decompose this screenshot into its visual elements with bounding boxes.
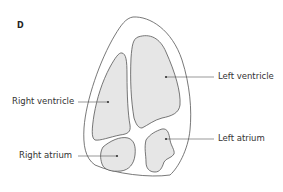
right-ventricle-chamber (92, 53, 130, 140)
label-left-atrium: Left atrium (218, 133, 265, 143)
label-right-atrium: Right atrium (19, 150, 72, 160)
right-atrium-chamber (101, 138, 136, 172)
left-atrium-chamber (145, 129, 174, 172)
label-left-ventricle: Left ventricle (218, 71, 274, 81)
label-right-ventricle: Right ventricle (12, 96, 74, 106)
left-ventricle-chamber (131, 36, 180, 128)
